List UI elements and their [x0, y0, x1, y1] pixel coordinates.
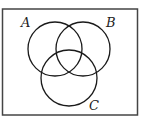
venn-diagram: A B C	[0, 0, 149, 123]
set-b-circle	[56, 22, 110, 76]
set-a-label: A	[20, 15, 30, 30]
set-c-label: C	[89, 98, 99, 113]
set-a-circle	[28, 22, 82, 76]
set-b-label: B	[105, 15, 116, 30]
